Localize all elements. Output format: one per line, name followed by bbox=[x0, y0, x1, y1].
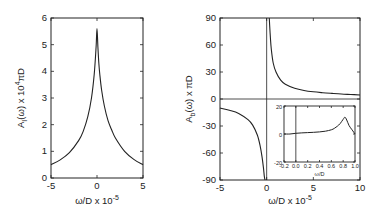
y-tick-label: -20 bbox=[274, 160, 282, 166]
left-curve bbox=[51, 29, 143, 165]
x-tick-label: 0.4 bbox=[316, 163, 324, 169]
y-tick-label: 0 bbox=[211, 93, 216, 104]
x-tick-label: 5 bbox=[140, 180, 145, 191]
y-tick-label: 5 bbox=[42, 39, 47, 50]
y-tick-label: 0 bbox=[279, 132, 282, 138]
x-tick-label: 0.0 bbox=[292, 163, 300, 169]
x-tick-label: 0 bbox=[94, 180, 99, 191]
left-plot: -5050123456 AI(ω) x 104πD ω/D x 10-5 bbox=[14, 12, 146, 206]
inset-xlabel: ω/D bbox=[315, 171, 325, 177]
right-ylabel: Ab(ω) x πD bbox=[183, 75, 196, 123]
x-tick-label: 1.0 bbox=[351, 163, 359, 169]
x-tick-label: -5 bbox=[216, 182, 224, 193]
y-tick-label: 2 bbox=[42, 119, 47, 130]
y-tick-label: 60 bbox=[205, 39, 216, 50]
y-tick-label: 0 bbox=[42, 172, 47, 183]
left-plot-frame bbox=[51, 18, 143, 178]
y-tick-label: 20 bbox=[276, 104, 282, 110]
x-tick-label: 0.8 bbox=[339, 163, 347, 169]
y-tick-label: -60 bbox=[202, 147, 216, 158]
x-tick-label: 0 bbox=[264, 182, 269, 193]
y-tick-label: -30 bbox=[202, 120, 216, 131]
left-xlabel: ω/D x 10-5 bbox=[75, 194, 119, 206]
y-tick-label: 1 bbox=[42, 145, 47, 156]
inset-plot: -0.20.00.20.40.60.81.0-20020 ω/D bbox=[274, 104, 359, 177]
x-tick-label: 0.2 bbox=[304, 163, 312, 169]
x-tick-label: 5 bbox=[311, 182, 316, 193]
y-tick-label: 3 bbox=[42, 92, 47, 103]
right-xlabel: ω/D x 10-5 bbox=[268, 194, 312, 206]
x-tick-label: -5 bbox=[47, 180, 55, 191]
y-tick-label: 30 bbox=[205, 66, 216, 77]
figure: -5050123456 AI(ω) x 104πD ω/D x 10-5 -50… bbox=[0, 0, 373, 217]
y-tick-label: -90 bbox=[202, 174, 216, 185]
left-plot-ticks: -5050123456 bbox=[42, 12, 146, 191]
y-tick-label: 4 bbox=[42, 65, 47, 76]
left-ylabel: AI(ω) x 104πD bbox=[14, 68, 28, 128]
inset-frame bbox=[284, 106, 355, 162]
y-tick-label: 6 bbox=[42, 12, 47, 23]
x-tick-label: 10 bbox=[355, 182, 366, 193]
right-curve-positive bbox=[269, 18, 360, 95]
x-tick-label: 0.6 bbox=[328, 163, 336, 169]
right-curve-negative bbox=[220, 108, 265, 180]
y-tick-label: 90 bbox=[205, 12, 216, 23]
right-plot: -50510-90-60-300306090 Ab(ω) x πD ω/D x … bbox=[183, 12, 365, 206]
